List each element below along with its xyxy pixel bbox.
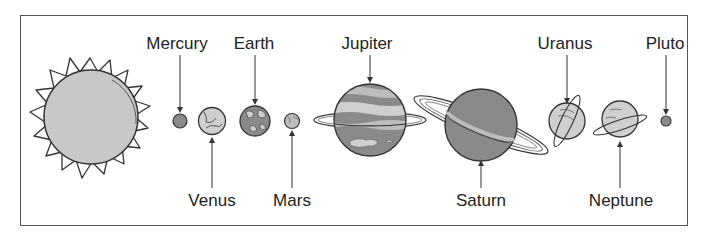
label-mercury: Mercury: [146, 34, 207, 54]
mercury-icon: [173, 114, 187, 128]
label-jupiter: Jupiter: [341, 34, 392, 54]
pluto-icon: [661, 116, 671, 126]
label-venus: Venus: [188, 191, 235, 211]
label-pluto: Pluto: [646, 34, 685, 54]
label-saturn: Saturn: [456, 191, 506, 211]
jupiter-icon: [314, 80, 426, 160]
earth-icon: [240, 106, 270, 136]
label-uranus: Uranus: [538, 34, 593, 54]
label-earth: Earth: [234, 34, 275, 54]
uranus-icon: [549, 93, 585, 149]
label-neptune: Neptune: [589, 191, 653, 211]
mars-icon: [285, 114, 300, 129]
venus-icon: [199, 108, 226, 135]
label-mars: Mars: [273, 191, 311, 211]
sun-icon: [30, 58, 150, 178]
saturn-icon: [410, 87, 553, 163]
neptune-icon: [592, 101, 648, 138]
